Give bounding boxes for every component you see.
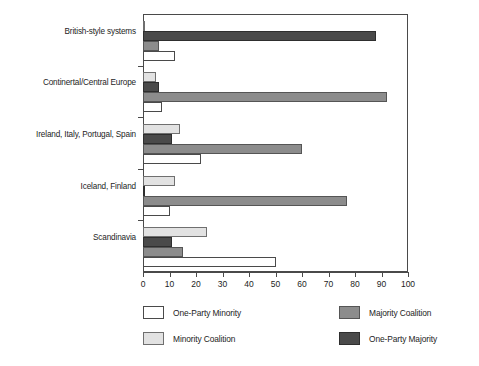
x-axis-tick-50 [276, 272, 277, 277]
legend-item-one-party-minority[interactable]: One-Party Minority [143, 306, 241, 319]
bar-minority-coalition-0 [143, 21, 145, 31]
bar-majority-coalition-0 [143, 41, 159, 51]
category-label-0: British-style systems [6, 27, 136, 37]
category-label-1: Continertal/Central Europe [6, 78, 136, 88]
bar-majority-coalition-4 [143, 247, 183, 257]
bar-minority-coalition-1 [143, 72, 156, 82]
x-axis-tick-label-60: 60 [297, 279, 306, 289]
bar-minority-coalition-4 [143, 227, 207, 237]
legend-label-one-party-majority: One-Party Majority [369, 334, 437, 344]
x-axis-tick-0 [143, 272, 144, 277]
legend-swatch-minority-coalition [143, 332, 164, 345]
y-axis-tick-3 [138, 169, 144, 170]
bar-one-party-majority-4 [143, 237, 172, 247]
legend-label-minority-coalition: Minority Coalition [173, 334, 235, 344]
x-axis-tick-label-90: 90 [377, 279, 386, 289]
x-axis-tick-label-50: 50 [271, 279, 280, 289]
x-axis-tick-90 [382, 272, 383, 277]
bar-one-party-minority-1 [143, 102, 162, 112]
legend-swatch-one-party-minority [143, 306, 164, 319]
bar-majority-coalition-1 [143, 92, 387, 102]
legend-item-one-party-majority[interactable]: One-Party Majority [339, 332, 437, 345]
bar-one-party-majority-2 [143, 134, 172, 144]
x-axis-tick-100 [408, 272, 409, 277]
x-axis-tick-label-80: 80 [350, 279, 359, 289]
y-axis-tick-1 [138, 66, 144, 67]
x-axis-tick-20 [196, 272, 197, 277]
bars-layer [143, 14, 408, 272]
x-axis-tick-label-70: 70 [324, 279, 333, 289]
bar-majority-coalition-3 [143, 196, 347, 206]
x-axis-tick-80 [355, 272, 356, 277]
category-label-3: Iceland, Finland [6, 182, 136, 192]
legend-item-majority-coalition[interactable]: Majority Coalition [339, 306, 431, 319]
y-axis-tick-2 [138, 117, 144, 118]
x-axis-tick-10 [170, 272, 171, 277]
y-axis-tick-4 [138, 220, 144, 221]
bar-one-party-majority-1 [143, 82, 159, 92]
x-axis-tick-60 [302, 272, 303, 277]
bar-one-party-majority-3 [143, 186, 145, 196]
x-axis-tick-label-30: 30 [218, 279, 227, 289]
legend-label-majority-coalition: Majority Coalition [369, 308, 431, 318]
legend-swatch-one-party-majority [339, 332, 360, 345]
bar-one-party-minority-3 [143, 206, 170, 216]
category-axis-labels: British-style systemsContinertal/Central… [0, 0, 136, 270]
x-axis-tick-label-20: 20 [191, 279, 200, 289]
legend-swatch-majority-coalition [339, 306, 360, 319]
bar-minority-coalition-3 [143, 176, 175, 186]
category-label-2: Ireland, Italy, Portugal, Spain [6, 130, 136, 140]
grouped-bar-chart: British-style systemsContinertal/Central… [0, 0, 479, 366]
bar-one-party-minority-0 [143, 51, 175, 61]
bar-minority-coalition-2 [143, 124, 180, 134]
x-axis-tick-30 [223, 272, 224, 277]
bar-one-party-majority-0 [143, 31, 376, 41]
x-axis-tick-label-40: 40 [244, 279, 253, 289]
legend-label-one-party-minority: One-Party Minority [173, 308, 241, 318]
chart-legend: One-Party MinorityMinority CoalitionMajo… [143, 306, 443, 354]
bar-one-party-minority-4 [143, 257, 276, 267]
x-axis-tick-label-100: 100 [401, 279, 415, 289]
x-axis-tick-label-0: 0 [141, 279, 146, 289]
x-axis-tick-70 [329, 272, 330, 277]
legend-item-minority-coalition[interactable]: Minority Coalition [143, 332, 235, 345]
bar-one-party-minority-2 [143, 154, 201, 164]
category-label-4: Scandinavia [6, 233, 136, 243]
bar-majority-coalition-2 [143, 144, 302, 154]
x-axis-tick-40 [249, 272, 250, 277]
x-axis-tick-label-10: 10 [165, 279, 174, 289]
